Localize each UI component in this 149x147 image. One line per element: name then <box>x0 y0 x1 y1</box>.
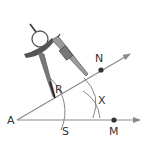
ray-an <box>17 54 130 120</box>
point-n <box>98 67 103 72</box>
label-n: N <box>95 52 103 65</box>
angle-bisector-diagram: A N M R S X <box>0 0 149 147</box>
label-m: M <box>109 125 119 138</box>
point-m <box>111 117 116 122</box>
label-r: R <box>55 83 63 96</box>
label-a: A <box>7 114 15 127</box>
label-x: X <box>98 94 106 107</box>
label-s: S <box>62 125 69 138</box>
arc-from-r <box>84 78 96 118</box>
